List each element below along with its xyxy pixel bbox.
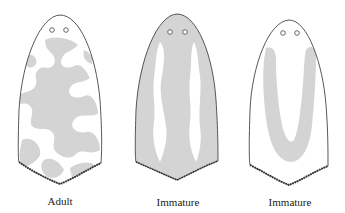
eye-spot-right — [183, 30, 188, 35]
eye-spot-left — [281, 31, 286, 36]
adult-label: Adult — [15, 195, 105, 207]
eye-spot-right — [295, 31, 300, 36]
immature-u-band-figure — [249, 20, 328, 185]
eye-spot-right — [64, 28, 69, 33]
immature-label-1: Immature — [133, 196, 223, 208]
immature-striped-figure — [135, 14, 218, 180]
eye-spot-left — [168, 30, 173, 35]
immature-label-2: Immature — [245, 196, 335, 208]
diagram-canvas — [0, 0, 345, 213]
eye-spot-left — [50, 28, 55, 33]
adult-figure — [18, 15, 102, 184]
